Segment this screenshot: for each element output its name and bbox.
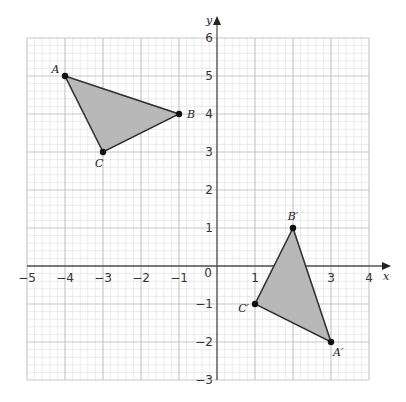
y-tick-label: 1	[205, 221, 213, 235]
vertex-label: A′	[332, 346, 344, 359]
y-tick-label: 3	[205, 145, 213, 159]
x-tick-label: −3	[94, 271, 112, 285]
vertex-label: B′	[287, 210, 299, 223]
x-axis-arrow-icon	[382, 262, 391, 270]
y-tick-label: 6	[205, 31, 213, 45]
y-tick-label: 2	[205, 183, 213, 197]
vertex-label: A	[50, 63, 59, 76]
plot-canvas: xy−5−4−3−2−11234−3−2−11234560ABCA′B′C′	[0, 0, 406, 402]
vertex-point	[328, 339, 334, 345]
vertex-point	[100, 149, 106, 155]
coordinate-grid-diagram: xy−5−4−3−2−11234−3−2−11234560ABCA′B′C′	[0, 0, 406, 402]
vertex-label: C′	[238, 302, 249, 315]
y-tick-label: 5	[205, 69, 213, 83]
vertex-point	[176, 111, 182, 117]
y-tick-label: −1	[195, 297, 213, 311]
origin-label: 0	[204, 266, 212, 280]
y-tick-label: −2	[195, 335, 213, 349]
y-tick-label: 4	[205, 107, 213, 121]
x-tick-label: −1	[170, 271, 188, 285]
y-axis-arrow-icon	[213, 16, 221, 25]
vertex-point	[290, 225, 296, 231]
vertex-label: B	[186, 108, 195, 121]
x-tick-label: −2	[132, 271, 150, 285]
x-tick-label: −5	[18, 271, 36, 285]
x-axis-label: x	[383, 270, 390, 283]
vertex-point	[62, 73, 68, 79]
x-tick-label: 3	[327, 271, 335, 285]
vertex-label: C	[95, 157, 104, 170]
x-tick-label: −4	[56, 271, 74, 285]
y-axis-label: y	[205, 14, 213, 27]
y-tick-label: −3	[195, 373, 213, 387]
x-tick-label: 4	[365, 271, 373, 285]
x-tick-label: 1	[251, 271, 259, 285]
vertex-point	[252, 301, 258, 307]
